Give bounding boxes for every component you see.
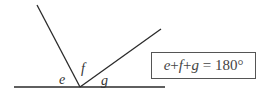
formula-value: 180° [215,57,244,73]
formula-plus-1: + [170,57,178,73]
angle-label-g: g [101,74,108,88]
right-ray [80,29,161,87]
formula-g: g [191,57,199,73]
angle-label-e: e [59,73,65,87]
formula-text: e+f+g = 180° [164,57,244,74]
angle-diagram [0,0,273,98]
formula-equals: = [203,57,211,73]
angle-label-f: f [81,62,85,76]
formula-box: e+f+g = 180° [151,52,256,79]
